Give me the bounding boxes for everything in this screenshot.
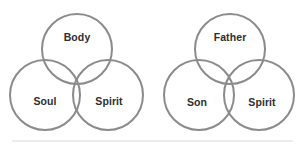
- label-spirit-right: Spirit: [248, 96, 275, 108]
- diagram-canvas: Body Soul Spirit Father Son Spirit: [0, 0, 307, 146]
- label-father: Father: [214, 31, 247, 43]
- label-body: Body: [64, 31, 91, 43]
- label-soul: Soul: [33, 95, 56, 107]
- circle-spirit-right: [223, 59, 295, 131]
- label-spirit-left: Spirit: [95, 95, 122, 107]
- label-son: Son: [187, 96, 207, 108]
- faint-underline-artifact: [12, 140, 293, 142]
